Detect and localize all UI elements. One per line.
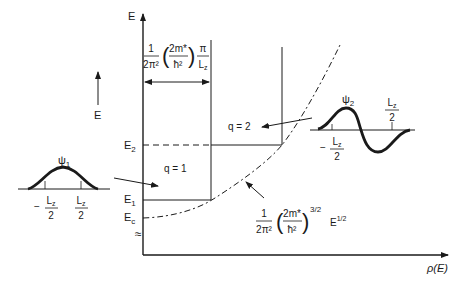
svg-text:2m*: 2m* bbox=[283, 208, 301, 219]
bulk-formula-pointer-arrow bbox=[246, 182, 264, 198]
svg-text:−: − bbox=[320, 142, 326, 153]
level-E1-label: E1 bbox=[124, 193, 136, 208]
svg-text:2: 2 bbox=[334, 151, 340, 162]
svg-text:): ) bbox=[302, 209, 309, 234]
psi2-wavefunction: ψ2 − Lz 2 Lz 2 bbox=[310, 93, 415, 162]
svg-text:2: 2 bbox=[389, 112, 395, 123]
svg-text:3/2: 3/2 bbox=[310, 205, 322, 214]
y-axis-label: E bbox=[128, 10, 135, 22]
svg-text:2m*: 2m* bbox=[169, 43, 187, 54]
svg-text:E1/2: E1/2 bbox=[330, 215, 347, 228]
psi1-wavefunction: ψ1 − Lz 2 Lz 2 bbox=[18, 154, 110, 221]
svg-text:Lz: Lz bbox=[332, 136, 342, 148]
psi1-pointer-arrow bbox=[114, 178, 158, 186]
level-E2-label: E2 bbox=[124, 139, 136, 154]
svg-text:2π²: 2π² bbox=[256, 224, 272, 235]
svg-text:−: − bbox=[34, 201, 40, 212]
x-axis-label: ρ(E) bbox=[426, 262, 448, 274]
svg-text:1: 1 bbox=[148, 43, 154, 54]
svg-text:ħ²: ħ² bbox=[288, 224, 298, 235]
svg-text:2: 2 bbox=[78, 210, 84, 221]
subband-q1-label: q = 1 bbox=[164, 163, 187, 174]
svg-text:1: 1 bbox=[261, 208, 267, 219]
svg-text:π: π bbox=[200, 43, 207, 54]
svg-text:2π²: 2π² bbox=[143, 59, 159, 70]
subband-q2-label: q = 2 bbox=[228, 121, 251, 132]
svg-text:Lz: Lz bbox=[76, 195, 86, 207]
svg-text:Lz: Lz bbox=[387, 97, 397, 109]
svg-text:2: 2 bbox=[48, 210, 54, 221]
svg-text:ħ²: ħ² bbox=[174, 59, 184, 70]
level-Ec-label: Ec bbox=[124, 211, 135, 226]
svg-text:ψ2: ψ2 bbox=[342, 93, 355, 108]
axis-break-symbol: ≈ bbox=[135, 227, 142, 241]
bulk-dos-formula: 1 2π² ( 2m* ħ² ) 3/2 E1/2 bbox=[256, 205, 347, 235]
svg-text:Lz: Lz bbox=[46, 195, 56, 207]
density-of-states-diagram: E ρ(E) ≈ E E2 E1 Ec 1 2π² ( 2m* ħ² ) π L… bbox=[0, 0, 469, 283]
energy-arrow-label: E bbox=[94, 109, 101, 121]
svg-text:): ) bbox=[188, 43, 195, 68]
svg-text:Lz: Lz bbox=[198, 59, 208, 71]
step-height-formula: 1 2π² ( 2m* ħ² ) π Lz bbox=[143, 43, 209, 71]
psi2-pointer-arrow bbox=[262, 118, 312, 127]
